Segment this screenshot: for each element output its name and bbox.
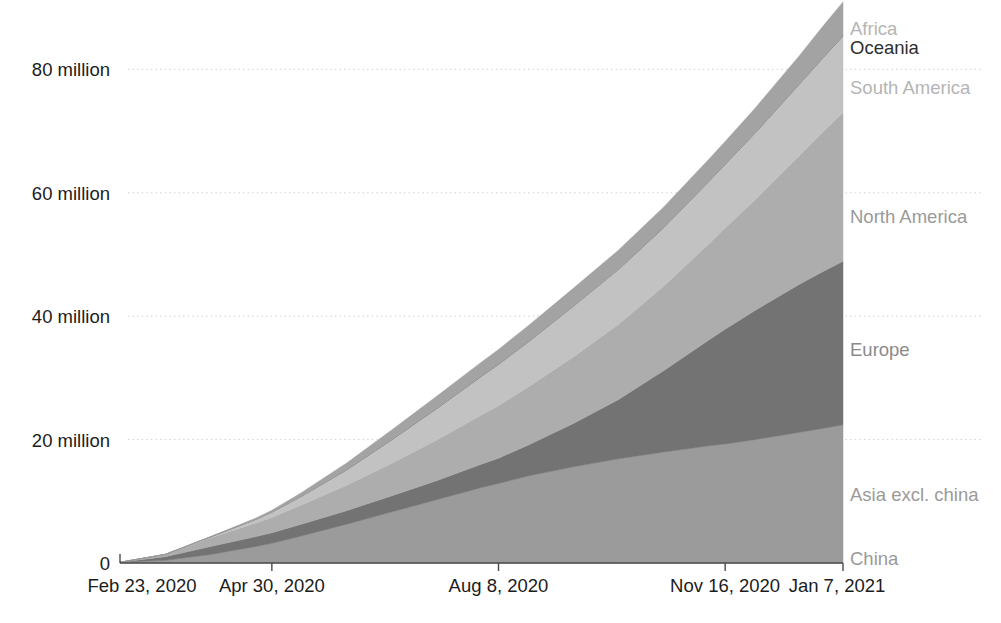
- chart-canvas: 020 million40 million60 million80 millio…: [0, 0, 1001, 623]
- y-tick-label-40: 40 million: [32, 306, 110, 327]
- y-tick-label-0: 0: [100, 553, 110, 574]
- y-axis-labels-group: 020 million40 million60 million80 millio…: [32, 59, 110, 574]
- series-label-china: China: [850, 548, 899, 569]
- series-label-north-america: North America: [850, 206, 968, 227]
- y-tick-label-60: 60 million: [32, 183, 110, 204]
- y-tick-label-80: 80 million: [32, 59, 110, 80]
- area-series-group: [120, 2, 843, 563]
- series-label-europe: Europe: [850, 339, 910, 360]
- stacked-area-chart: 020 million40 million60 million80 millio…: [0, 0, 1001, 623]
- series-label-oceania: Oceania: [850, 37, 920, 58]
- x-tick-label-4: Jan 7, 2021: [789, 575, 886, 596]
- series-label-asia-excl-china: Asia excl. china: [850, 484, 979, 505]
- series-label-africa: Africa: [850, 18, 898, 39]
- series-label-south-america: South America: [850, 77, 971, 98]
- x-tick-label-2: Aug 8, 2020: [449, 575, 549, 596]
- x-tick-label-3: Nov 16, 2020: [670, 575, 780, 596]
- x-axis-labels-group: Feb 23, 2020Apr 30, 2020Aug 8, 2020Nov 1…: [87, 575, 885, 596]
- x-tick-label-1: Apr 30, 2020: [219, 575, 325, 596]
- y-tick-label-20: 20 million: [32, 430, 110, 451]
- series-labels-group: ChinaAsia excl. chinaEuropeNorth America…: [850, 18, 979, 569]
- x-tick-label-0: Feb 23, 2020: [87, 575, 196, 596]
